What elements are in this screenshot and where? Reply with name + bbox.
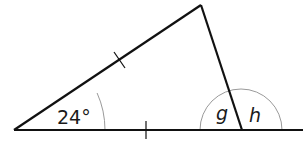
angle-label-h: h xyxy=(249,104,261,126)
left-side xyxy=(14,5,201,130)
triangle-diagram: 24° g h xyxy=(0,0,303,144)
angle-label-24: 24° xyxy=(57,106,91,128)
angle-arc-24 xyxy=(97,93,105,130)
angle-label-g: g xyxy=(216,102,228,124)
left-side-equal-mark xyxy=(114,52,125,68)
